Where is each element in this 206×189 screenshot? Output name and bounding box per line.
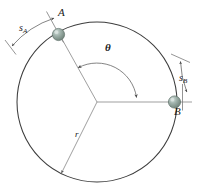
label-point-b: B bbox=[174, 106, 181, 117]
label-arc-sb: sB bbox=[179, 73, 187, 85]
extension-tick-b-end bbox=[171, 54, 190, 63]
sphere-highlight-a bbox=[55, 30, 59, 34]
extension-tick-a-end bbox=[5, 40, 16, 55]
sphere-highlight-b bbox=[171, 98, 175, 102]
label-arc-sa-subscript: A bbox=[23, 27, 27, 35]
theta-arc bbox=[78, 63, 136, 97]
label-angle-theta: θ bbox=[105, 42, 111, 53]
geometry-diagram-svg bbox=[0, 0, 206, 189]
label-radius-r: r bbox=[75, 130, 79, 139]
label-point-a: A bbox=[58, 7, 65, 18]
radius-line-r bbox=[62, 102, 98, 173]
sphere-marker-a bbox=[52, 28, 64, 40]
label-arc-sb-subscript: B bbox=[183, 77, 187, 85]
radius-line-to-a bbox=[59, 34, 97, 103]
figure-canvas: A B θ r sA sB bbox=[0, 0, 206, 189]
label-arc-sa: sA bbox=[19, 23, 27, 35]
